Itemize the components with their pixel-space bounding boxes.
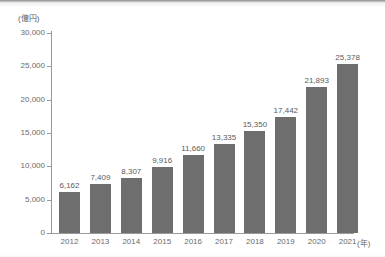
bar	[121, 178, 142, 233]
y-axis-tick-mark	[47, 133, 52, 134]
bar	[152, 167, 173, 233]
y-axis-tick-mark	[47, 233, 52, 234]
bar-value-label: 13,335	[205, 133, 244, 142]
x-axis-unit-label: (年)	[357, 237, 370, 248]
bar-value-label: 11,660	[174, 144, 213, 153]
bar	[275, 117, 296, 233]
bar-column: 13,335	[214, 144, 235, 233]
bar	[183, 155, 204, 233]
bar-column: 11,660	[183, 155, 204, 233]
y-axis-tick-label: 20,000	[0, 95, 45, 104]
y-axis-tick-label: 25,000	[0, 61, 45, 70]
bar-value-label: 15,350	[235, 120, 274, 129]
y-axis-tick-label: 0	[0, 228, 45, 237]
bar-column: 7,409	[90, 184, 111, 233]
bar	[90, 184, 111, 233]
y-axis-unit-label: (億円)	[18, 12, 39, 23]
bar-value-label: 8,307	[112, 167, 151, 176]
bar-column: 25,378	[337, 64, 358, 233]
y-axis-tick-mark	[47, 33, 52, 34]
bar-chart: (億円) 05,00010,00015,00020,00025,00030,00…	[0, 0, 385, 257]
bar	[214, 144, 235, 233]
y-axis-tick-mark	[47, 166, 52, 167]
bar-value-label: 21,893	[297, 76, 336, 85]
y-axis-tick-mark	[47, 100, 52, 101]
bar	[306, 87, 327, 233]
x-axis-line	[51, 233, 354, 234]
bar-column: 8,307	[121, 178, 142, 233]
y-axis-tick-label: 5,000	[0, 195, 45, 204]
bar	[337, 64, 358, 233]
bar	[59, 192, 80, 233]
y-axis-tick-mark	[47, 200, 52, 201]
y-axis-tick-label: 15,000	[0, 128, 45, 137]
bar-value-label: 9,916	[143, 156, 182, 165]
bar-column: 15,350	[244, 131, 265, 233]
y-axis-tick-mark	[47, 66, 52, 67]
bar-value-label: 6,162	[50, 181, 89, 190]
bar-value-label: 25,378	[328, 53, 367, 62]
bar-value-label: 17,442	[266, 106, 305, 115]
bar-column: 21,893	[306, 87, 327, 233]
bar-column: 17,442	[275, 117, 296, 233]
y-axis-tick-label: 10,000	[0, 161, 45, 170]
y-axis-tick-label: 30,000	[0, 28, 45, 37]
bar-column: 6,162	[59, 192, 80, 233]
bar	[244, 131, 265, 233]
bar-column: 9,916	[152, 167, 173, 233]
